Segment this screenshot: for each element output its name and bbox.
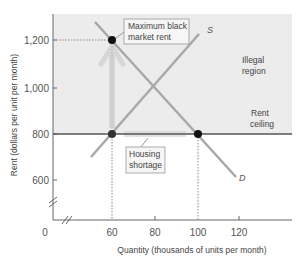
svg-text:800: 800 [32, 129, 49, 140]
supply-label: S [207, 25, 213, 35]
supply-point [108, 130, 116, 138]
y-ticks: 1,200 1,000 800 600 [24, 35, 57, 186]
svg-text:1,200: 1,200 [24, 35, 49, 46]
rent-ceiling-label: Rent [251, 108, 270, 118]
demand-point [194, 130, 202, 138]
svg-text:100: 100 [190, 227, 207, 238]
x-axis-label: Quantity (thousands of units per month) [117, 245, 266, 255]
svg-text:ceiling: ceiling [250, 119, 274, 129]
svg-text:0: 0 [42, 227, 48, 238]
housing-shortage-label: Housing [129, 149, 160, 159]
svg-text:1,000: 1,000 [24, 83, 49, 94]
black-market-point [108, 36, 116, 44]
x-ticks: 0 60 80 100 120 [42, 216, 248, 238]
svg-text:region: region [242, 66, 266, 76]
illegal-region-label: Illegal [242, 55, 264, 65]
svg-text:market rent: market rent [128, 32, 172, 42]
svg-text:600: 600 [32, 175, 49, 186]
svg-text:60: 60 [106, 227, 118, 238]
y-axis-label: Rent (dollars per unit per month) [9, 54, 19, 177]
rent-ceiling-chart: 1,200 1,000 800 600 0 60 80 100 120 Quan… [0, 0, 297, 260]
demand-label: D [239, 173, 246, 183]
svg-text:80: 80 [149, 227, 161, 238]
svg-text:120: 120 [231, 227, 248, 238]
black-market-label: Maximum black [128, 21, 188, 31]
svg-text:shortage: shortage [129, 160, 162, 170]
